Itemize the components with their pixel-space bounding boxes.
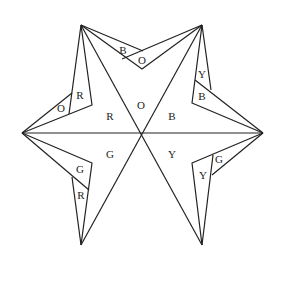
lower-right-notch-outline <box>192 133 263 245</box>
label-center-top: O <box>137 99 145 111</box>
upper-left-notch-outline <box>22 25 92 133</box>
upper-right-flap-line-2 <box>195 80 263 133</box>
label-left-upper-inner: R <box>76 89 84 101</box>
label-right-lower-inner: Y <box>199 169 207 181</box>
label-left-lower-outer: G <box>76 163 84 175</box>
label-center-upper-left: R <box>106 110 114 122</box>
label-right-upper-inner: B <box>198 90 205 102</box>
star-diagram: O R B G Y B O Y B G Y O R G R <box>0 0 281 288</box>
label-right-lower-outer: G <box>215 153 223 165</box>
lower-left-flap-line-2 <box>72 177 81 245</box>
label-right-upper-outer: Y <box>198 68 206 80</box>
label-center-upper-right: B <box>168 110 175 122</box>
label-center-lower-left: G <box>106 148 114 160</box>
upper-left-flap-line-1 <box>69 25 81 114</box>
label-left-lower-inner: R <box>77 189 85 201</box>
lower-left-flap-line-1 <box>22 133 89 190</box>
upper-right-flap-line-1 <box>202 25 211 90</box>
label-center-lower-right: Y <box>168 148 176 160</box>
label-left-upper-outer: O <box>57 102 65 114</box>
label-top-left-flap: B <box>119 44 126 56</box>
label-top-right-flap: O <box>138 54 146 66</box>
